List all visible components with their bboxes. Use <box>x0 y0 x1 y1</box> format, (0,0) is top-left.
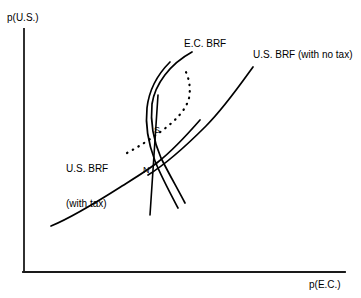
curve-label-us-brf-with-tax: U.S. BRF (with tax) <box>66 140 108 232</box>
point-label-n: N <box>143 165 150 177</box>
curve-label-ec-brf: E.C. BRF <box>184 38 226 50</box>
curve-label-us-brf-no-tax: U.S. BRF (with no tax) <box>253 49 352 61</box>
y-axis-label: p(U.S.) <box>7 12 39 24</box>
point-label-s: S <box>154 125 160 137</box>
curve-us-brf-no-tax <box>148 67 253 175</box>
brf-diagram: p(U.S.) p(E.C.) E.C. BRF U.S. BRF (with … <box>0 0 361 298</box>
x-axis-label: p(E.C.) <box>309 279 341 291</box>
curve-label-us-brf-with-tax-line2: (with tax) <box>66 198 108 210</box>
plot-canvas <box>0 0 361 298</box>
curve-label-us-brf-with-tax-line1: U.S. BRF <box>66 163 108 175</box>
